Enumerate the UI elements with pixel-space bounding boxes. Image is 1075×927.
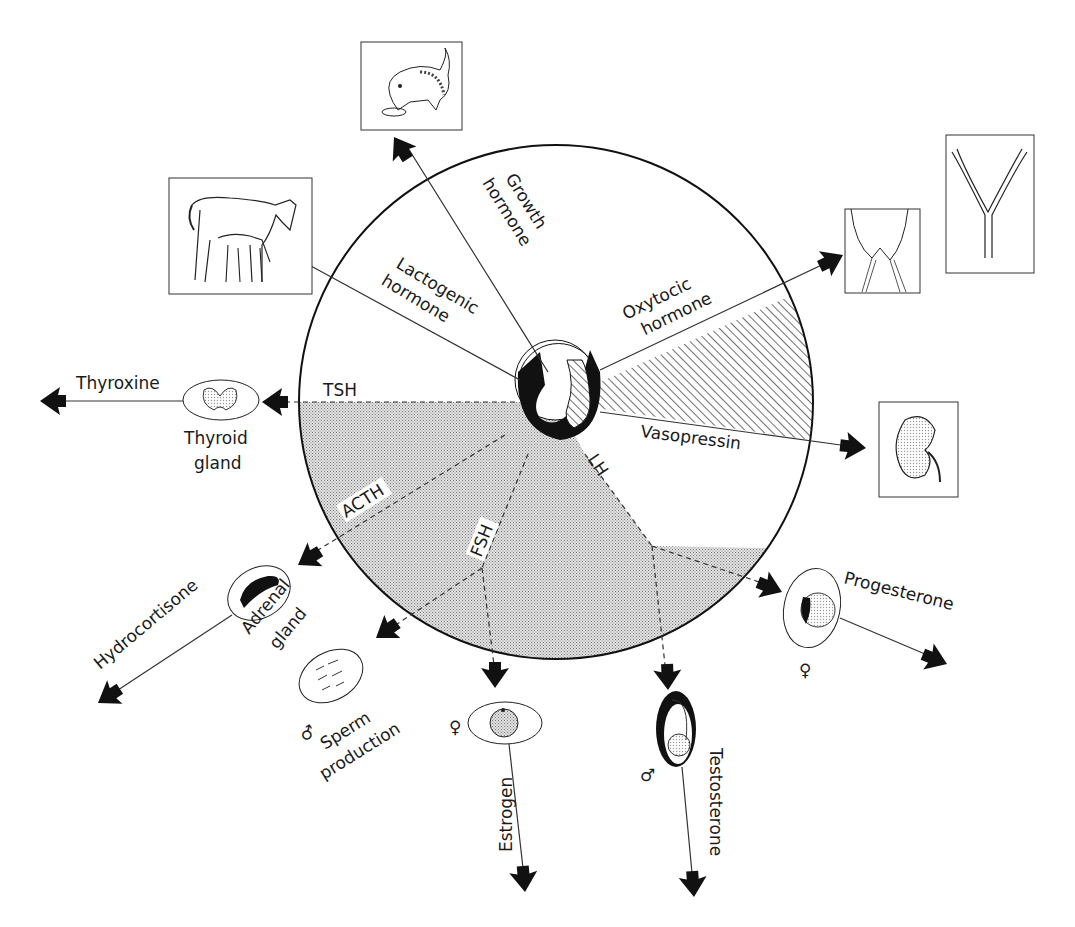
vasopressin-arrow-icon (839, 431, 868, 462)
uterus-illustration (946, 135, 1034, 273)
mare-and-foal-illustration (169, 178, 312, 294)
lactogenic-hormone-label: Lactogenic hormone (378, 251, 482, 337)
growth-arrow-icon (382, 130, 420, 167)
testis-illustration (656, 691, 696, 767)
progesterone-line (840, 618, 925, 654)
hydrocortisone-arrow-icon (90, 677, 127, 715)
progesterone-label: Progesterone (842, 567, 956, 614)
corpus-luteum-illustration (776, 563, 847, 653)
testosterone-arrow-icon (678, 870, 708, 898)
lh-testosterone-arrow-icon (653, 664, 682, 691)
female-symbol-estrogen: ♀ (449, 717, 461, 737)
mammary-gland-illustration (845, 209, 920, 293)
testosterone-line (682, 767, 692, 873)
fsh-estrogen-arrow-icon (481, 662, 509, 688)
tsh-label: TSH (322, 380, 357, 400)
thyroid-gland-illustration (183, 380, 259, 420)
male-symbol-sperm: ♂ (296, 720, 320, 745)
pituitary-hormone-diagram: Growth hormone Lactogenic hormone Oxytoc… (0, 0, 1075, 927)
lh-progesterone-arrow-icon (753, 569, 788, 605)
oxytocic-hormone-label: Oxytocic hormone (619, 268, 715, 343)
hydrocortisone-label: Hydrocortisone (90, 575, 202, 673)
testosterone-label: Testosterone (706, 747, 726, 856)
thyroxine-arrow-icon (40, 387, 66, 415)
thyroid-label-line1: Thyroid (183, 428, 248, 448)
growth-hormone-label: Growth hormone (479, 163, 555, 250)
progesterone-arrow-icon (918, 641, 953, 677)
acth-arrow-icon (291, 539, 328, 577)
seminiferous-tubules-illustration (290, 638, 373, 714)
oxytocic-arrow-icon (813, 242, 849, 279)
kidney-illustration (879, 402, 958, 497)
thyroid-label-line2: gland (194, 453, 242, 473)
tsh-arrow-icon (262, 388, 288, 416)
female-symbol-progesterone: ♀ (799, 660, 811, 680)
ovarian-follicle-illustration (468, 702, 542, 744)
puppy-illustration (361, 42, 462, 130)
male-symbol-testosterone: ♂ (640, 765, 655, 785)
fsh-sperm-arrow-icon (368, 612, 405, 650)
estrogen-arrow-icon (509, 865, 539, 893)
thyroxine-label: Thyroxine (75, 373, 160, 393)
estrogen-label: Estrogen (496, 777, 516, 852)
